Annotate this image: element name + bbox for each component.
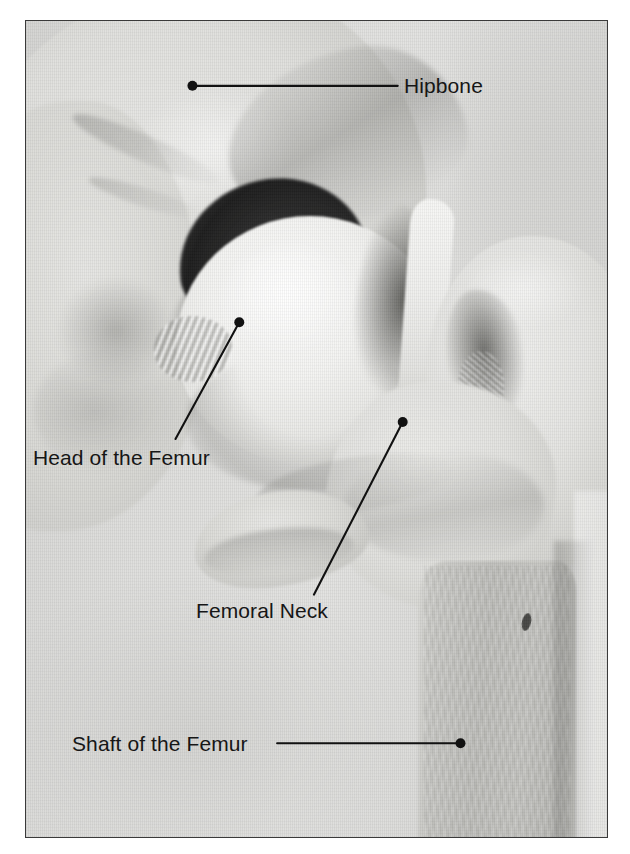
label-femoral-neck: Femoral Neck	[196, 600, 328, 621]
label-hipbone: Hipbone	[404, 75, 483, 96]
label-shaft-of-the-femur: Shaft of the Femur	[72, 733, 248, 754]
figure-page: Hipbone Head of the Femur Femoral Neck S…	[0, 0, 630, 854]
label-head-of-the-femur: Head of the Femur	[33, 447, 210, 468]
photograph-frame	[25, 20, 608, 838]
photo-grain-texture	[26, 21, 607, 837]
hip-joint-photograph	[26, 21, 607, 837]
